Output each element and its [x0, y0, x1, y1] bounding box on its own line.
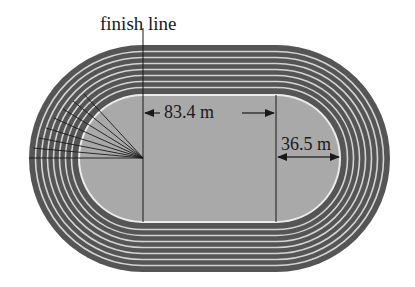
finish-line-label: finish line [100, 14, 177, 33]
track-diagram: finish line 83.4 m 36.5 m [0, 0, 415, 287]
straight-length-label: 83.4 m [164, 103, 214, 121]
track-drawing [0, 0, 415, 287]
radius-label: 36.5 m [281, 135, 331, 153]
